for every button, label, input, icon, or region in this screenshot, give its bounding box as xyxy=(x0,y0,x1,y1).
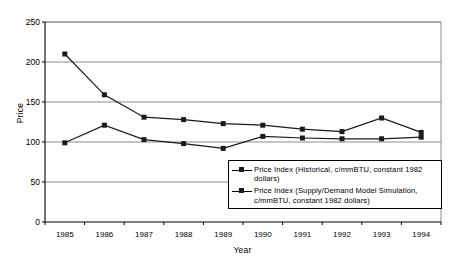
data-point-marker xyxy=(260,134,265,139)
chart-legend: Price Index (Historical, c/mmBTU, consta… xyxy=(228,160,442,209)
data-point-marker xyxy=(300,127,305,132)
data-point-marker xyxy=(102,123,107,128)
data-point-marker xyxy=(419,135,424,140)
data-point-marker xyxy=(221,146,226,151)
legend-item: Price Index (Supply/Demand Model Simulat… xyxy=(232,186,437,204)
legend-marker-icon xyxy=(232,187,252,196)
legend-item-label: Price Index (Historical, c/mmBTU, consta… xyxy=(252,165,437,183)
data-point-marker xyxy=(419,130,424,135)
plot-area xyxy=(0,0,451,273)
data-point-marker xyxy=(102,92,107,97)
data-point-marker xyxy=(62,52,67,57)
data-point-marker xyxy=(142,137,147,142)
data-point-marker xyxy=(340,136,345,141)
series-line xyxy=(65,125,421,148)
data-point-marker xyxy=(142,115,147,120)
data-point-marker xyxy=(379,116,384,121)
data-point-marker xyxy=(181,117,186,122)
data-point-marker xyxy=(181,141,186,146)
data-point-marker xyxy=(221,121,226,126)
legend-marker-icon xyxy=(232,166,252,175)
data-point-marker xyxy=(300,136,305,141)
data-point-marker xyxy=(340,129,345,134)
price-index-line-chart: Price Year 050100150200250 1985198619871… xyxy=(0,0,451,273)
data-point-marker xyxy=(379,136,384,141)
legend-item: Price Index (Historical, c/mmBTU, consta… xyxy=(232,165,437,183)
legend-item-label: Price Index (Supply/Demand Model Simulat… xyxy=(252,186,437,204)
series-line xyxy=(65,54,421,132)
data-point-marker xyxy=(62,140,67,145)
data-point-marker xyxy=(260,123,265,128)
